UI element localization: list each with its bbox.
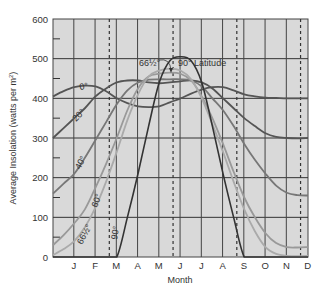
y-tick-label: 400 [32, 93, 48, 104]
x-axis-title: Month [167, 275, 192, 285]
y-tick-label: 100 [32, 212, 48, 223]
x-month-label: A [219, 260, 226, 271]
x-month-label: M [112, 260, 120, 271]
x-month-label: J [178, 260, 183, 271]
annotation-90: 90° Latitude [178, 58, 226, 68]
x-month-label: F [92, 260, 98, 271]
y-tick-label: 300 [32, 133, 48, 144]
x-month-label: A [134, 260, 141, 271]
x-month-label: N [283, 260, 290, 271]
x-month-label: J [71, 260, 76, 271]
y-tick-label: 600 [32, 14, 48, 25]
x-month-label: J [199, 260, 204, 271]
insolation-chart: 0100200300400500600 JFMAMJJASOND Average… [0, 0, 326, 297]
y-axis-title: Average Insolation (watts per m2) [8, 72, 18, 205]
annotation-6612: 66½° [139, 58, 161, 68]
x-month-label: S [241, 260, 247, 271]
y-axis: 0100200300400500600 [32, 14, 48, 263]
x-month-label: O [261, 260, 268, 271]
x-month-label: D [304, 260, 311, 271]
y-tick-label: 200 [32, 172, 48, 183]
y-tick-label: 500 [32, 53, 48, 64]
x-month-label: M [155, 260, 163, 271]
x-axis: JFMAMJJASOND [71, 260, 311, 271]
y-tick-label: 0 [43, 252, 48, 263]
